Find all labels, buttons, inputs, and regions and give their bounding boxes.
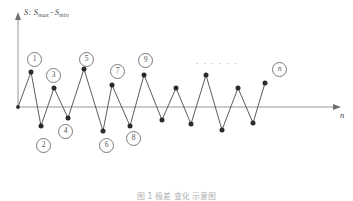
figure-container: S: Smax−Smin n · · · · · · 123456789n 图 … [0,0,353,201]
data-point [160,118,165,123]
data-point [236,86,241,91]
data-point [174,86,179,91]
y-axis-arrow-icon [15,12,21,20]
x-axis-label: n [340,110,344,120]
data-point [263,81,268,86]
axes-group [15,12,341,110]
data-point [251,121,256,126]
y-axis-label: S: Smax−Smin [24,7,69,17]
vertex-label-9: 9 [138,53,153,68]
vertex-label-8: 8 [126,131,141,146]
data-point [29,70,34,75]
vertex-label-1: 1 [27,52,42,67]
y-axis-label-prefix: S: [24,7,31,17]
y-axis-label-smin-sub: min [59,12,69,18]
figure-caption: 图 1 极差 变化 示意图 [0,191,353,201]
data-point [128,124,133,129]
data-point [220,128,225,133]
vertex-label-5: 5 [79,52,94,67]
data-point [189,122,194,127]
data-point [204,73,209,78]
ellipsis-indicator: · · · · · · [196,60,238,68]
data-point [101,129,106,134]
vertex-label-7: 7 [110,64,125,79]
vertex-label-6: 6 [99,138,114,153]
data-point [39,124,44,129]
vertex-label-4: 4 [58,124,73,139]
data-point [16,105,20,109]
vertex-label-3: 3 [46,68,61,83]
data-point [66,116,71,121]
data-point [52,86,57,91]
data-point [142,73,147,78]
y-axis-label-smax-sub: max [38,12,49,18]
vertex-label-2: 2 [36,138,51,153]
data-point [82,67,87,72]
vertex-label-n: n [272,62,287,77]
data-point [110,83,115,88]
zigzag-plot [0,0,353,201]
